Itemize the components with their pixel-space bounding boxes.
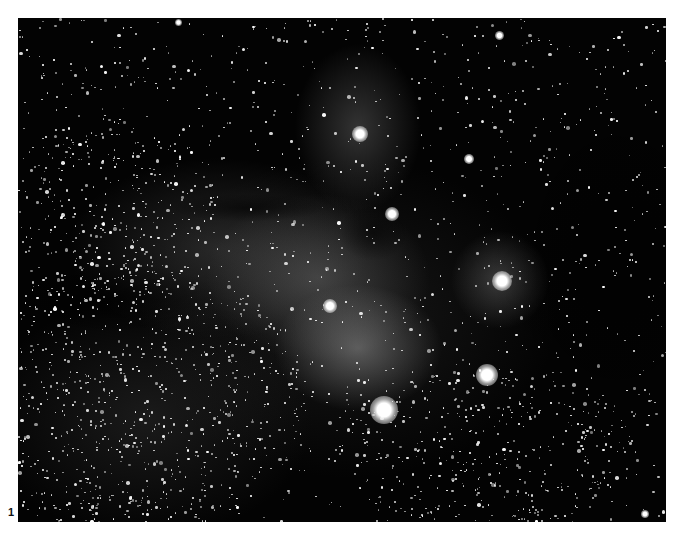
figure-number-label: 1	[8, 506, 14, 518]
bright-star-bottom-right-star	[641, 510, 649, 518]
bright-star-antares	[370, 396, 398, 424]
bright-star-ic4603-star	[492, 271, 512, 291]
astrophotograph	[18, 18, 666, 522]
bright-star-top-left-star	[175, 19, 182, 26]
bright-star-mid-nebula-star	[323, 299, 337, 313]
bright-star-top-star	[495, 31, 504, 40]
bright-star-upper-right-star	[464, 154, 474, 164]
bright-star-upper-reflection-star	[385, 207, 399, 221]
bright-stars	[18, 18, 666, 522]
bright-star-sigma-sco	[476, 364, 498, 386]
bright-star-rho-oph	[352, 126, 368, 142]
